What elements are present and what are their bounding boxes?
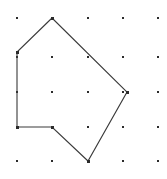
lattice-dot: [51, 91, 53, 93]
lattice-dot: [16, 17, 18, 19]
lattice-dot: [87, 17, 89, 19]
polygon-layer: [17, 18, 127, 161]
geoboard-canvas: [0, 0, 167, 179]
polygon-vertex-right: [126, 91, 129, 94]
polygon-vertex-bottom-left: [16, 126, 19, 129]
lattice-dot: [51, 56, 53, 58]
lattice-dot: [157, 160, 159, 162]
polygon-outline: [17, 18, 127, 161]
lattice-dot: [157, 56, 159, 58]
lattice-dot: [87, 91, 89, 93]
dot-lattice-layer: [16, 17, 159, 162]
lattice-dot: [87, 56, 89, 58]
lattice-dot: [157, 91, 159, 93]
lattice-dot: [157, 17, 159, 19]
geoboard-figure: [0, 0, 167, 179]
lattice-dot: [122, 56, 124, 58]
polygon-vertex-upper-left: [16, 51, 19, 54]
lattice-dot: [122, 17, 124, 19]
lattice-dot: [157, 126, 159, 128]
polygon-vertex-notch-inner: [51, 126, 54, 129]
lattice-dot: [16, 160, 18, 162]
lattice-dot: [51, 160, 53, 162]
lattice-dot: [87, 126, 89, 128]
lattice-dot: [122, 126, 124, 128]
lattice-dot: [122, 160, 124, 162]
polygon-vertex-apex-top: [51, 17, 54, 20]
lattice-dot: [122, 91, 124, 93]
polygon-vertex-bottom: [87, 160, 90, 163]
